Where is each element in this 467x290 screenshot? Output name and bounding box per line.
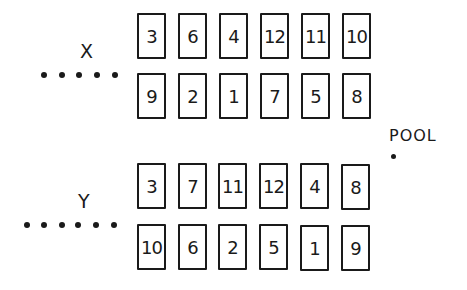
card-number: 11 <box>222 176 243 197</box>
card-number: 2 <box>187 86 197 107</box>
card-number: 1 <box>228 86 238 107</box>
group-y-label: Y <box>78 190 91 212</box>
dot <box>93 222 99 228</box>
card-number: 10 <box>141 237 162 258</box>
card: 6 <box>178 13 207 59</box>
card-number: 3 <box>146 176 156 197</box>
card-number: 4 <box>228 26 238 47</box>
card-number: 5 <box>268 237 278 258</box>
card: 8 <box>342 73 371 119</box>
card: 8 <box>341 164 370 210</box>
card-number: 10 <box>346 26 367 47</box>
card-number: 4 <box>309 176 319 197</box>
card-number: 7 <box>269 86 279 107</box>
card: 1 <box>300 225 329 271</box>
card-number: 9 <box>146 86 156 107</box>
card-number: 11 <box>305 26 326 47</box>
card: 9 <box>137 73 166 119</box>
card-number: 12 <box>263 176 284 197</box>
card-number: 6 <box>187 26 197 47</box>
card: 4 <box>300 163 329 209</box>
card-number: 9 <box>350 238 360 259</box>
card-number: 1 <box>309 238 319 259</box>
card: 3 <box>137 163 166 209</box>
card: 12 <box>260 13 289 59</box>
dot <box>111 222 117 228</box>
card: 2 <box>218 224 247 270</box>
dot <box>41 222 47 228</box>
card-number: 8 <box>350 177 360 198</box>
dot <box>24 222 30 228</box>
card-number: 12 <box>264 26 285 47</box>
card-number: 6 <box>187 237 197 258</box>
card: 6 <box>178 224 207 270</box>
card: 5 <box>259 224 288 270</box>
card: 7 <box>178 163 207 209</box>
dot <box>59 222 65 228</box>
card: 4 <box>219 13 248 59</box>
dot <box>41 72 47 78</box>
card: 5 <box>301 73 330 119</box>
card-number: 7 <box>187 176 197 197</box>
dot <box>75 222 81 228</box>
card-number: 2 <box>227 237 237 258</box>
card: 7 <box>260 73 289 119</box>
pool-label: POOL <box>389 126 437 145</box>
card: 12 <box>259 163 288 209</box>
card: 2 <box>178 73 207 119</box>
card: 3 <box>137 13 166 59</box>
card: 11 <box>218 163 247 209</box>
card: 11 <box>301 13 330 59</box>
card-number: 5 <box>310 86 320 107</box>
card-number: 3 <box>146 26 156 47</box>
pool-dot <box>391 154 396 159</box>
card-number: 8 <box>351 86 361 107</box>
dot <box>76 72 82 78</box>
dot <box>112 72 118 78</box>
card: 10 <box>342 13 371 59</box>
dot <box>59 72 65 78</box>
group-x-label: X <box>80 40 94 62</box>
card: 10 <box>137 224 166 270</box>
dot <box>94 72 100 78</box>
card: 9 <box>341 225 370 271</box>
card: 1 <box>219 73 248 119</box>
